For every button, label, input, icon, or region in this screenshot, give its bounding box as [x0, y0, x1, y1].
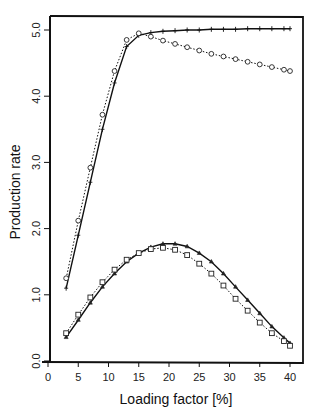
x-tick-label: 35	[254, 371, 266, 383]
circle-marker	[233, 57, 238, 62]
circle-marker	[76, 218, 81, 223]
series-upper-dotted-circle	[64, 31, 293, 281]
circle-marker	[269, 65, 274, 70]
square-marker	[257, 320, 262, 325]
plus-marker	[185, 28, 189, 33]
circle-marker	[88, 165, 93, 170]
y-axis-title: Production rate	[7, 144, 23, 239]
x-tick-label: 30	[223, 371, 235, 383]
x-tick-label: 25	[193, 371, 205, 383]
plus-marker	[173, 28, 177, 33]
circle-marker	[221, 54, 226, 59]
circle-marker	[209, 51, 214, 56]
square-marker	[136, 251, 141, 256]
series-line	[66, 244, 290, 343]
plus-marker	[288, 26, 292, 31]
series-line	[66, 33, 290, 278]
plus-marker	[270, 26, 274, 31]
square-marker	[288, 343, 293, 348]
circle-marker	[282, 67, 287, 72]
square-marker	[233, 296, 238, 301]
circle-marker	[112, 69, 117, 74]
circle-marker	[64, 276, 69, 281]
square-marker	[88, 295, 93, 300]
x-tick-label: 5	[75, 371, 81, 383]
square-marker	[112, 267, 117, 272]
square-marker	[269, 331, 274, 336]
plus-marker	[197, 28, 201, 33]
series-lower-solid-triangle	[64, 242, 292, 345]
circle-marker	[197, 48, 202, 53]
production-rate-chart: 0510152025303540 0.01.02.03.04.05.0 Load…	[0, 0, 319, 412]
circle-marker	[136, 31, 141, 36]
circle-marker	[161, 38, 166, 43]
square-marker	[282, 339, 287, 344]
circle-marker	[288, 69, 293, 74]
square-marker	[245, 308, 250, 313]
y-tick-label: 5.0	[30, 22, 42, 37]
plus-marker	[209, 27, 213, 32]
x-tick-label: 0	[45, 371, 51, 383]
square-marker	[64, 331, 69, 336]
y-axis-ticks: 0.01.02.03.04.05.0	[30, 22, 50, 368]
plus-marker	[258, 26, 262, 31]
y-tick-label: 2.0	[30, 221, 42, 236]
square-marker	[76, 312, 81, 317]
square-marker	[100, 280, 105, 285]
circle-marker	[245, 59, 250, 64]
square-marker	[221, 283, 226, 288]
square-marker	[148, 247, 153, 252]
series-line	[66, 248, 290, 346]
plus-marker	[161, 29, 165, 34]
y-tick-label: 3.0	[30, 155, 42, 170]
x-tick-label: 40	[284, 371, 296, 383]
plus-marker	[113, 80, 117, 85]
y-tick-label: 1.0	[30, 287, 42, 302]
y-tick-label: 4.0	[30, 89, 42, 104]
x-tick-label: 20	[163, 371, 175, 383]
plus-marker	[234, 27, 238, 32]
circle-marker	[185, 45, 190, 50]
x-axis-ticks: 0510152025303540	[45, 362, 296, 383]
square-marker	[124, 257, 129, 262]
circle-marker	[173, 42, 178, 47]
plus-marker	[246, 26, 250, 31]
circle-marker	[124, 38, 129, 43]
series-layer	[64, 26, 293, 348]
plus-marker	[76, 233, 80, 238]
plus-marker	[88, 180, 92, 185]
plus-marker	[64, 286, 68, 291]
circle-marker	[148, 34, 153, 39]
plus-marker	[282, 26, 286, 31]
plus-marker	[221, 27, 225, 32]
plus-marker	[100, 127, 104, 132]
series-lower-dotted-square	[64, 245, 293, 348]
x-tick-label: 15	[133, 371, 145, 383]
circle-marker	[257, 62, 262, 67]
x-axis-title: Loading factor [%]	[120, 391, 233, 407]
square-marker	[173, 247, 178, 252]
square-marker	[197, 261, 202, 266]
circle-marker	[100, 112, 105, 117]
x-tick-label: 10	[102, 371, 114, 383]
square-marker	[161, 245, 166, 250]
square-marker	[185, 253, 190, 258]
square-marker	[209, 271, 214, 276]
series-line	[66, 29, 290, 289]
y-tick-label: 0.0	[30, 353, 42, 368]
